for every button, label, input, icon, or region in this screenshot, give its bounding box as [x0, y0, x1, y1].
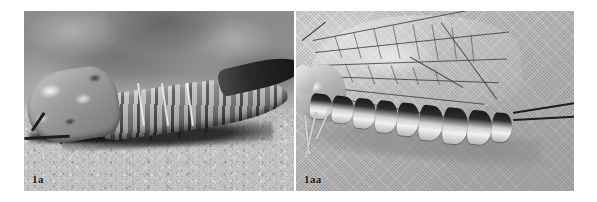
panel-label-1a: 1a	[32, 174, 44, 185]
abdominal-segment-3	[352, 97, 377, 129]
abdominal-segment-2	[331, 95, 356, 125]
abdominal-segment-9	[491, 112, 513, 143]
panel-label-1aa: 1aa	[304, 174, 322, 185]
abdominal-segment-1	[309, 92, 334, 119]
abdominal-segment-7	[442, 106, 470, 144]
figure-plate: 1a	[0, 0, 597, 202]
figure-panel-1a[interactable]: 1a	[24, 11, 294, 191]
figure-panel-1aa[interactable]: 1aa	[296, 11, 574, 191]
abdominal-segment-8	[466, 109, 494, 145]
